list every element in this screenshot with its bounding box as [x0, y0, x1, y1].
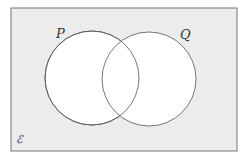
- universal-set-label: ℰ: [16, 133, 24, 146]
- set-q-label: Q: [180, 27, 191, 42]
- venn-diagram: P Q ℰ: [0, 0, 247, 160]
- set-p-label: P: [55, 26, 65, 41]
- set-q-circle: [102, 32, 196, 126]
